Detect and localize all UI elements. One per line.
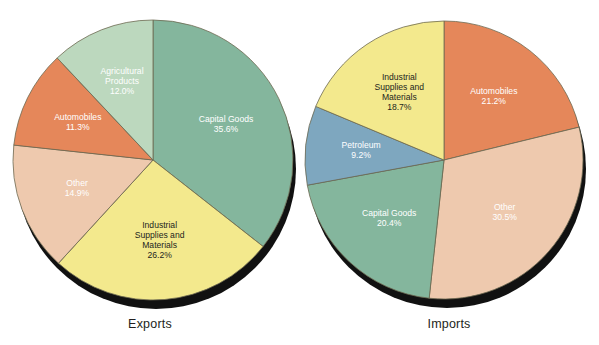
exports-caption: Exports: [0, 317, 300, 331]
imports-pie-panel: Automobiles21.2%Other30.5%Capital Goods2…: [299, 0, 599, 345]
imports-pie-svg: Automobiles21.2%Other30.5%Capital Goods2…: [299, 0, 599, 320]
imports-caption: Imports: [299, 317, 599, 331]
pie-chart-figure: Capital Goods35.6%IndustrialSupplies and…: [0, 0, 599, 345]
exports-pie-panel: Capital Goods35.6%IndustrialSupplies and…: [0, 0, 300, 345]
exports-pie-svg: Capital Goods35.6%IndustrialSupplies and…: [0, 0, 300, 320]
